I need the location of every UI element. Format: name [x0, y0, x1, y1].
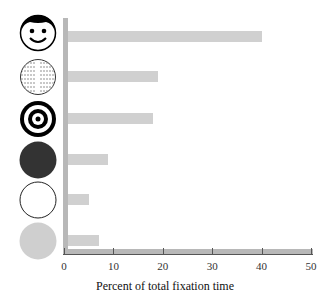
x-tick-label: 30 — [207, 260, 218, 272]
y-axis — [63, 18, 68, 252]
x-tick — [262, 248, 263, 254]
x-tick-label: 0 — [61, 260, 67, 272]
bar-5 — [68, 235, 99, 246]
white-disk-icon — [19, 181, 57, 219]
gray-disk-icon — [19, 222, 57, 260]
x-tick-label: 50 — [306, 260, 317, 272]
x-tick — [212, 248, 213, 254]
x-tick — [113, 248, 114, 254]
x-tick-label: 20 — [157, 260, 168, 272]
x-tick — [64, 248, 65, 254]
x-tick-label: 10 — [108, 260, 119, 272]
bar-0 — [68, 31, 262, 42]
x-axis-label: Percent of total fixation time — [0, 279, 333, 294]
face-icon — [19, 14, 57, 52]
x-tick — [311, 248, 312, 254]
bar-2 — [68, 113, 153, 124]
bullseye-icon — [19, 100, 57, 138]
bar-1 — [68, 71, 158, 82]
bar-4 — [68, 194, 89, 205]
x-tick-label: 40 — [256, 260, 267, 272]
x-axis — [63, 249, 313, 255]
dark-disk-icon — [19, 141, 57, 179]
text-pattern-icon — [19, 58, 57, 96]
x-tick — [163, 248, 164, 254]
bar-3 — [68, 154, 108, 165]
